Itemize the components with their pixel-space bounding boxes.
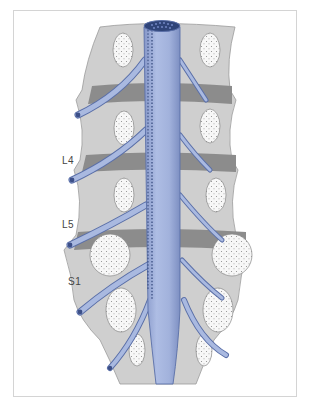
pedicle-l5-left: [114, 178, 134, 212]
pedicle-l4-right: [200, 109, 220, 143]
sacral-foramen-1-left: [106, 288, 136, 332]
pedicle-l3-right: [200, 33, 220, 67]
sacral-ala-right: [212, 234, 252, 276]
pedicle-l3-left: [113, 33, 133, 67]
pedicle-l5-right: [206, 178, 226, 212]
label-s1: S1: [68, 276, 81, 287]
sacral-ala-left: [90, 234, 130, 276]
spine-illustration: [0, 0, 310, 410]
label-l4: L4: [62, 155, 74, 166]
label-l5: L5: [62, 219, 74, 230]
